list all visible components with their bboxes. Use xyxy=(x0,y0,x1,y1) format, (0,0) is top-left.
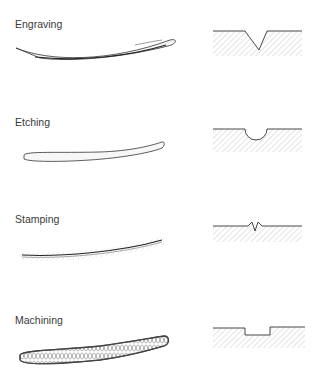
engraving-profile xyxy=(213,31,302,56)
etching-stroke xyxy=(24,142,164,162)
etching-profile xyxy=(213,129,302,152)
stamping-profile xyxy=(213,222,302,242)
machining-profile xyxy=(213,327,305,348)
stamping-stroke xyxy=(20,236,166,261)
stamping-label: Stamping xyxy=(15,213,59,225)
engraving-stroke xyxy=(16,40,175,60)
engraving-label: Engraving xyxy=(15,18,62,30)
machining-label: Machining xyxy=(15,314,63,326)
etching-label: Etching xyxy=(15,116,50,128)
machining-stroke xyxy=(20,336,169,364)
